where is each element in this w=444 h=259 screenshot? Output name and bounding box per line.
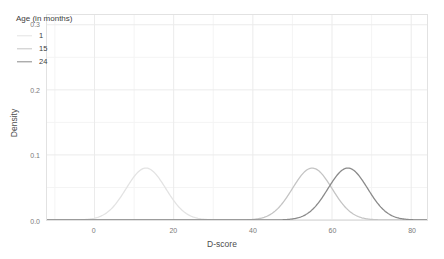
density-curve: [47, 168, 427, 220]
x-axis-title: D-score: [0, 239, 444, 249]
legend-item-15[interactable]: 15: [16, 42, 72, 55]
x-tick-label: 0: [92, 227, 96, 234]
legend-item-1[interactable]: 1: [16, 29, 72, 42]
legend-title: Age (in months): [16, 14, 72, 23]
density-curves: [47, 15, 427, 220]
legend: Age (in months) 1 15 24: [16, 14, 72, 68]
legend-item-label: 24: [39, 57, 47, 66]
legend-swatch-line-icon: [16, 43, 33, 54]
density-curve: [47, 168, 427, 220]
y-tick-label: 0.0: [6, 218, 40, 225]
y-tick-label: 0.2: [6, 86, 40, 93]
x-tick-label: 60: [329, 227, 337, 234]
legend-item-24[interactable]: 24: [16, 55, 72, 68]
legend-swatch-line-icon: [16, 30, 33, 41]
x-tick-label: 40: [249, 227, 257, 234]
x-tick-label: 20: [169, 227, 177, 234]
legend-swatch-line-icon: [16, 56, 33, 67]
legend-item-label: 15: [39, 44, 47, 53]
density-chart: Age (in months) 1 15 24 0.00.10.20.3 020…: [0, 0, 444, 259]
legend-item-label: 1: [39, 31, 43, 40]
x-tick-label: 80: [408, 227, 416, 234]
plot-panel: [46, 14, 428, 221]
density-curve: [47, 168, 427, 220]
y-axis-title: Density: [9, 93, 19, 153]
